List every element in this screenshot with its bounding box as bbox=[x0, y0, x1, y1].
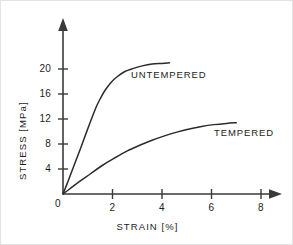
series-curve-untempered bbox=[63, 63, 169, 194]
x-tick-label: 4 bbox=[150, 203, 174, 213]
series-label-tempered: TEMPERED bbox=[214, 128, 274, 138]
axes-group bbox=[58, 18, 282, 199]
x-tick-label: 8 bbox=[249, 203, 273, 213]
y-axis-title: STRESS [MPa] bbox=[18, 101, 28, 180]
stress-strain-chart-figure: 481216202468 0 UNTEMPERED TEMPERED STRES… bbox=[0, 0, 293, 245]
x-axis-arrow-icon bbox=[269, 189, 282, 199]
x-tick-label: 6 bbox=[200, 203, 224, 213]
origin-tick-label: 0 bbox=[51, 199, 65, 209]
y-axis-arrow-icon bbox=[58, 18, 68, 31]
series-label-untempered: UNTEMPERED bbox=[131, 70, 207, 80]
y-tick-label: 16 bbox=[21, 89, 51, 99]
series-curve-tempered bbox=[63, 123, 236, 194]
x-tick-label: 2 bbox=[101, 203, 125, 213]
x-axis-title: STRAIN [%] bbox=[1, 222, 293, 232]
y-tick-label: 20 bbox=[21, 64, 51, 74]
curves-group bbox=[63, 63, 236, 194]
